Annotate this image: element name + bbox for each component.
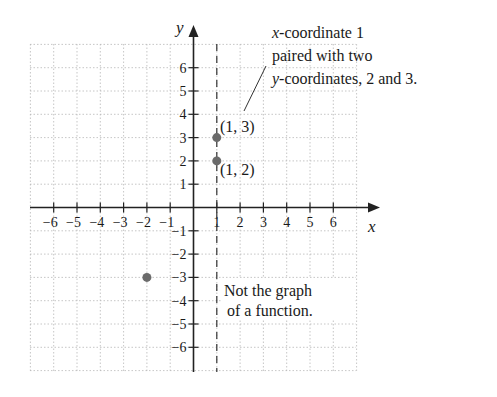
- callout-line-1: x-coordinate 1: [271, 24, 364, 41]
- x-tick-label: 5: [307, 215, 314, 230]
- note-line-1: Not the graph: [224, 282, 312, 300]
- x-tick-label: 6: [330, 215, 337, 230]
- x-tick-label: −3: [113, 215, 128, 230]
- point-label-1-2: (1, 2): [220, 161, 255, 179]
- callout-line-3: y-coordinates, 2 and 3.: [270, 70, 417, 88]
- x-tick-label: 3: [260, 215, 267, 230]
- x-tick-label: −6: [43, 215, 58, 230]
- y-tick-label: −1: [172, 224, 187, 239]
- x-tick-label: −5: [66, 215, 81, 230]
- x-tick-label: −4: [89, 215, 104, 230]
- y-tick-label: −3: [172, 270, 187, 285]
- coordinate-plane: −6−5−4−3−2−1123456654321−1−2−3−4−5−6 y x…: [0, 0, 497, 397]
- x-tick-label: −2: [136, 215, 151, 230]
- y-tick-label: 2: [180, 154, 187, 169]
- y-tick-label: −6: [172, 340, 187, 355]
- y-tick-label: −2: [172, 247, 187, 262]
- y-tick-label: 1: [180, 177, 187, 192]
- point-label-1-3: (1, 3): [220, 118, 255, 136]
- y-tick-label: −5: [172, 317, 187, 332]
- y-tick-label: −4: [172, 294, 187, 309]
- y-axis-label: y: [174, 18, 184, 37]
- x-tick-label: 2: [237, 215, 244, 230]
- y-tick-label: 4: [180, 107, 187, 122]
- data-point: [142, 273, 151, 282]
- callout-leader-line: [244, 66, 266, 111]
- x-tick-label: 4: [283, 215, 290, 230]
- y-tick-label: 5: [180, 84, 187, 99]
- note-line-2: of a function.: [227, 302, 313, 319]
- callout-line-2: paired with two: [272, 47, 372, 65]
- x-axis-label: x: [367, 217, 376, 236]
- y-tick-label: 3: [180, 131, 187, 146]
- y-tick-label: 6: [180, 61, 187, 76]
